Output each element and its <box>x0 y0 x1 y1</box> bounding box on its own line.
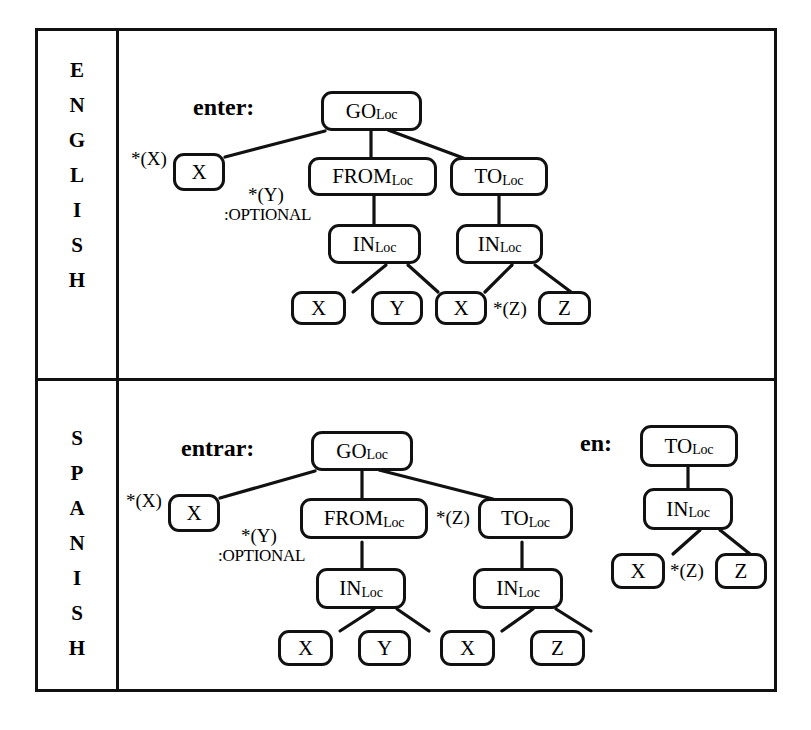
node-subscript: Loc <box>692 443 713 457</box>
node-label: FROM <box>324 508 384 529</box>
node-leaf-y[interactable]: Y <box>358 630 411 666</box>
node-leaf-x[interactable]: X <box>440 630 495 666</box>
edge-in-y <box>408 265 438 292</box>
node-x-arg1[interactable]: X <box>168 494 220 532</box>
node-label: IN <box>353 234 375 255</box>
node-to-loc[interactable]: TOLoc <box>450 157 548 196</box>
node-label: GO <box>336 441 366 462</box>
annotation-star-x: *(X) <box>126 491 162 510</box>
node-label: X <box>460 638 475 659</box>
node-from-loc[interactable]: FROMLoc <box>308 157 437 196</box>
edge-in-z <box>720 530 750 554</box>
node-label: TO <box>665 436 693 457</box>
node-leaf-y[interactable]: Y <box>371 291 423 325</box>
node-subscript: Loc <box>376 108 397 122</box>
node-label: Y <box>389 298 404 319</box>
figure-frame: E N G L I S H S P A N I S H <box>35 28 777 692</box>
node-label: X <box>186 503 201 524</box>
node-subscript: Loc <box>375 241 396 255</box>
annotation-optional: :OPTIONAL <box>218 547 305 564</box>
node-to-loc[interactable]: TOLoc <box>640 425 738 467</box>
annotation-star-x: *(X) <box>131 149 167 168</box>
node-label: Y <box>377 638 392 659</box>
node-subscript: Loc <box>529 516 550 530</box>
node-from-loc[interactable]: FROMLoc <box>300 498 428 539</box>
annotation-star-y: *(Y) <box>241 526 277 545</box>
node-label: TO <box>475 166 503 187</box>
node-leaf-x[interactable]: X <box>278 630 333 666</box>
node-go-loc[interactable]: GOLoc <box>311 431 413 471</box>
node-in-loc-right[interactable]: INLoc <box>456 224 543 264</box>
node-label: IN <box>666 499 688 520</box>
headword-enter: enter: <box>193 95 254 119</box>
node-label: X <box>298 638 313 659</box>
node-x-arg1[interactable]: X <box>173 153 225 191</box>
edge-go-to <box>379 470 493 499</box>
node-subscript: Loc <box>392 174 413 188</box>
edge-in-y <box>397 609 429 631</box>
node-label: IN <box>496 578 518 599</box>
annotation-optional: :OPTIONAL <box>224 206 311 223</box>
node-leaf-z[interactable]: Z <box>530 630 585 666</box>
node-subscript: Loc <box>362 586 383 600</box>
node-subscript: Loc <box>502 174 523 188</box>
annotation-star-y: *(Y) <box>248 185 284 204</box>
node-in-loc-right[interactable]: INLoc <box>473 568 563 609</box>
edge-go-x <box>225 131 325 157</box>
node-leaf-z[interactable]: Z <box>538 291 591 325</box>
edge-in-x <box>502 609 533 631</box>
node-label: Z <box>551 638 564 659</box>
edge-go-x <box>220 471 315 498</box>
node-label: Z <box>735 561 748 582</box>
node-leaf-x[interactable]: X <box>291 291 346 325</box>
node-label: X <box>453 298 468 319</box>
edge-in-z <box>556 609 591 631</box>
headword-en: en: <box>580 431 612 455</box>
node-in-loc-left[interactable]: INLoc <box>316 568 406 609</box>
edge-go-to <box>388 130 466 159</box>
annotation-star-z: *(Z) <box>493 299 527 318</box>
node-label: X <box>311 298 326 319</box>
node-leaf-x[interactable]: X <box>435 291 487 325</box>
edge-in-x <box>485 265 512 292</box>
annotation-star-z: *(Z) <box>436 508 470 527</box>
node-label: TO <box>501 508 529 529</box>
edge-in-x <box>340 609 374 631</box>
node-subscript: Loc <box>383 516 404 530</box>
node-subscript: Loc <box>689 506 710 520</box>
node-label: IN <box>339 578 361 599</box>
edge-in-x <box>353 265 386 292</box>
node-label: GO <box>346 101 376 122</box>
headword-entrar: entrar: <box>181 436 254 460</box>
node-to-loc[interactable]: TOLoc <box>478 498 573 539</box>
annotation-star-z: *(Z) <box>670 561 704 580</box>
node-subscript: Loc <box>367 448 388 462</box>
node-leaf-z[interactable]: Z <box>715 553 767 589</box>
edge-in-z <box>535 265 571 292</box>
node-subscript: Loc <box>500 241 521 255</box>
node-subscript: Loc <box>519 586 540 600</box>
node-label: X <box>630 561 645 582</box>
node-label: Z <box>558 298 571 319</box>
node-label: IN <box>478 234 500 255</box>
node-go-loc[interactable]: GOLoc <box>321 91 422 131</box>
node-in-loc-left[interactable]: INLoc <box>328 224 421 264</box>
edge-in-x <box>673 530 700 554</box>
node-in-loc[interactable]: INLoc <box>643 488 733 530</box>
node-label: X <box>191 162 206 183</box>
node-leaf-x[interactable]: X <box>611 553 665 589</box>
node-label: FROM <box>332 166 392 187</box>
